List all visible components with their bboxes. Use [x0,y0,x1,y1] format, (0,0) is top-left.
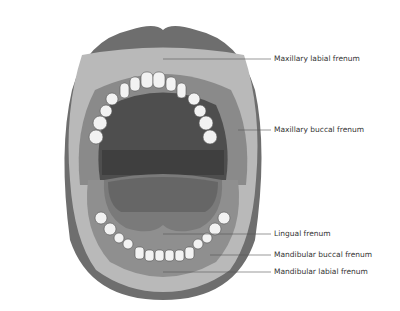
label-mandibular-labial-frenum: Mandibular labial frenum [274,267,368,276]
label-maxillary-buccal-frenum: Maxillary buccal frenum [274,125,364,134]
label-maxillary-labial-frenum: Maxillary labial frenum [274,54,360,63]
label-mandibular-buccal-frenum: Mandibular buccal frenum [274,250,372,259]
mouth-diagram [0,0,400,311]
label-lingual-frenum: Lingual frenum [274,229,331,238]
